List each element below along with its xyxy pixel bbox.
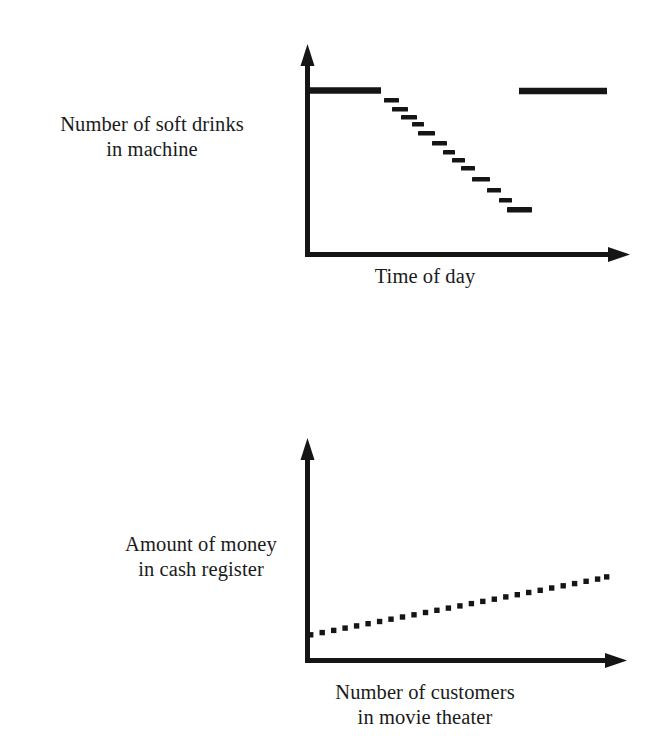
x-axis-label-time-of-day: Time of day (300, 264, 550, 289)
chart-panel-cash-register: Amount of money in cash register Number … (0, 380, 662, 755)
x-axis-label-number-of-customers: Number of customers in movie theater (290, 680, 560, 730)
y-axis-label-amount-of-money: Amount of money in cash register (70, 532, 332, 582)
y-axis-label-soft-drinks: Number of soft drinks in machine (18, 112, 286, 162)
data-dotted-increasing-line (308, 574, 609, 637)
y-axis-arrowhead-icon (301, 438, 315, 460)
x-axis-arrowhead-icon (608, 247, 630, 262)
y-axis-arrowhead-icon (301, 44, 315, 66)
soft-drinks-plot (0, 0, 662, 380)
chart-panel-soft-drinks: Number of soft drinks in machine Time of… (0, 0, 662, 380)
data-staircase-decreasing (384, 98, 532, 212)
x-axis-arrowhead-icon (605, 653, 627, 668)
